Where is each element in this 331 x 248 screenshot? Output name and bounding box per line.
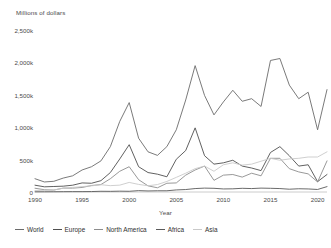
line-chart: Millions of dollars 0500k1,000k1,500k2,0… [0,0,331,248]
legend-label: Europe [65,226,86,233]
legend-item-north-america[interactable]: North America [94,226,147,233]
legend-label: Asia [205,226,217,233]
legend-line-icon [94,229,103,230]
series-line-world [35,59,327,182]
legend-item-africa[interactable]: Africa [156,226,184,233]
series-line-europe [35,128,327,187]
legend-item-world[interactable]: World [15,226,44,233]
legend-label: World [27,226,44,233]
legend-line-icon [193,229,202,230]
series-line-asia [35,152,327,191]
legend-item-europe[interactable]: Europe [53,226,86,233]
x-axis-title: Year [0,209,331,216]
legend-line-icon [53,229,62,230]
legend-item-asia[interactable]: Asia [193,226,217,233]
legend-line-icon [156,229,165,230]
series-line-north-america [35,158,327,190]
legend-label: North America [106,226,147,233]
chart-legend: WorldEuropeNorth AmericaAfricaAsia [0,226,331,233]
legend-line-icon [15,229,24,230]
legend-label: Africa [168,226,184,233]
